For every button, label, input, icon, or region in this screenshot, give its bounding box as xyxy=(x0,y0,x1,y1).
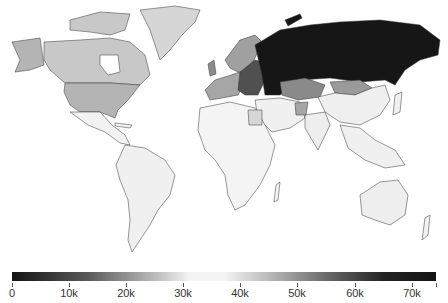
region-madagascar xyxy=(274,182,280,202)
colorbar-end-tick xyxy=(436,283,437,287)
region-japan xyxy=(393,92,402,115)
region-india xyxy=(305,112,330,150)
colorbar-tick-label: 0 xyxy=(9,287,15,299)
colorbar-tick-label: 30k xyxy=(174,287,192,299)
world-choropleth-map xyxy=(0,0,448,268)
colorbar-tick-label: 60k xyxy=(346,287,364,299)
region-australia xyxy=(360,180,408,225)
region-south-america xyxy=(116,145,175,252)
colorbar-tick-label: 50k xyxy=(288,287,306,299)
region-southeast-asia xyxy=(340,125,405,168)
region-alaska xyxy=(12,38,44,72)
region-afghanistan xyxy=(295,102,308,115)
region-canada xyxy=(44,38,150,85)
region-russia-islands xyxy=(285,14,302,26)
colorbar-tick-label: 40k xyxy=(231,287,249,299)
region-greenland xyxy=(140,6,200,60)
colorbar-tick-label: 20k xyxy=(117,287,135,299)
region-new-zealand xyxy=(422,215,430,240)
region-caribbean xyxy=(115,123,132,128)
region-uk xyxy=(208,60,216,76)
region-mexico xyxy=(70,112,130,145)
colorbar-tick-label: 10k xyxy=(60,287,78,299)
region-egypt xyxy=(248,110,262,125)
region-canada-islands xyxy=(70,12,130,35)
colorbar xyxy=(12,272,436,281)
colorbar-tick-label: 70k xyxy=(403,287,421,299)
